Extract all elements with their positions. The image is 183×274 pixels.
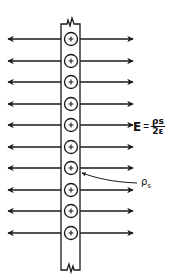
equation-lhs: E: [133, 120, 141, 134]
rho-subscript: s: [147, 182, 151, 190]
equation-denominator: 2ε: [152, 127, 163, 136]
equation-equals: =: [143, 121, 149, 132]
surface-charge-pointer: [82, 173, 137, 183]
equation-fraction: ρs 2ε: [151, 117, 165, 136]
surface-charge-label: ρs: [141, 176, 151, 190]
field-equation: E = ρs 2ε: [133, 117, 165, 136]
sheet-charge-diagram: [0, 0, 183, 274]
positive-charges: [65, 33, 78, 240]
